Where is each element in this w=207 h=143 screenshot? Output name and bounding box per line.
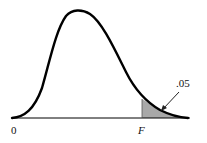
tail-area-label: .05 <box>176 77 190 89</box>
annotation-arrow <box>163 92 179 109</box>
origin-label: 0 <box>11 124 17 136</box>
density-curve <box>12 10 188 118</box>
critical-value-label: F <box>137 124 145 136</box>
f-distribution-chart: 0 F .05 <box>0 0 207 143</box>
